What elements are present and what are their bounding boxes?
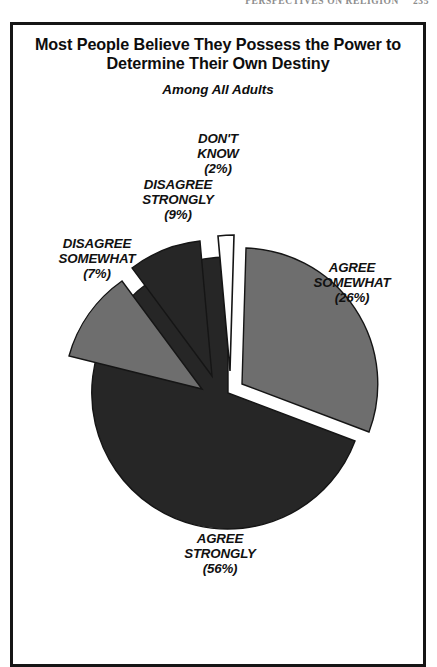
running-head: PERSPECTIVES ON RELIGION 235 — [0, 0, 429, 8]
pie-label-disagree-somewhat: DISAGREE SOMEWHAT (7%) — [33, 236, 161, 281]
pie-label-agree-somewhat: AGREE SOMEWHAT (26%) — [291, 260, 413, 305]
pie-label-dont-know: DON'T KNOW (2%) — [163, 131, 273, 176]
figure-frame: Most People Believe They Possess the Pow… — [10, 22, 426, 667]
running-head-title: PERSPECTIVES ON RELIGION — [245, 0, 399, 6]
running-head-page-number: 235 — [413, 0, 429, 6]
pie-label-agree-strongly: AGREE STRONGLY (56%) — [145, 531, 295, 576]
pie-label-disagree-strongly: DISAGREE STRONGLY (9%) — [118, 177, 238, 222]
